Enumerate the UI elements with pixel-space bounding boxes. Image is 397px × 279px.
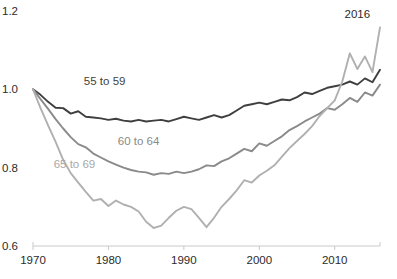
y-tick-label-0-6: 0.6 [2,240,18,252]
x-axis: 1970 1980 1990 2000 2010 [20,242,380,266]
x-tick-label-1980: 1980 [96,254,122,266]
series-lines [33,27,380,228]
y-axis-tick-labels: 1.2 1.0 0.8 0.6 [2,5,18,252]
y-tick-label-0-8: 0.8 [2,162,18,174]
annotations: 2016 [345,8,371,20]
series-line-65-to-69 [33,27,380,228]
series-label-65-to-69: 65 to 69 [54,158,96,170]
y-tick-label-1-2: 1.2 [2,5,18,17]
chart-container: 1.2 1.0 0.8 0.6 1970 1980 1990 2000 2010… [0,0,397,279]
x-tick-label-2000: 2000 [247,254,273,266]
x-tick-label-2010: 2010 [322,254,348,266]
series-label-60-to-64: 60 to 64 [118,135,160,147]
x-tick-label-1970: 1970 [20,254,46,266]
series-label-55-to-59: 55 to 59 [84,75,126,87]
series-labels: 55 to 59 60 to 64 65 to 69 [54,75,160,170]
x-tick-label-1990: 1990 [171,254,197,266]
annotation-2016: 2016 [345,8,371,20]
line-chart: 1.2 1.0 0.8 0.6 1970 1980 1990 2000 2010… [0,0,397,279]
y-tick-label-1-0: 1.0 [2,83,18,95]
